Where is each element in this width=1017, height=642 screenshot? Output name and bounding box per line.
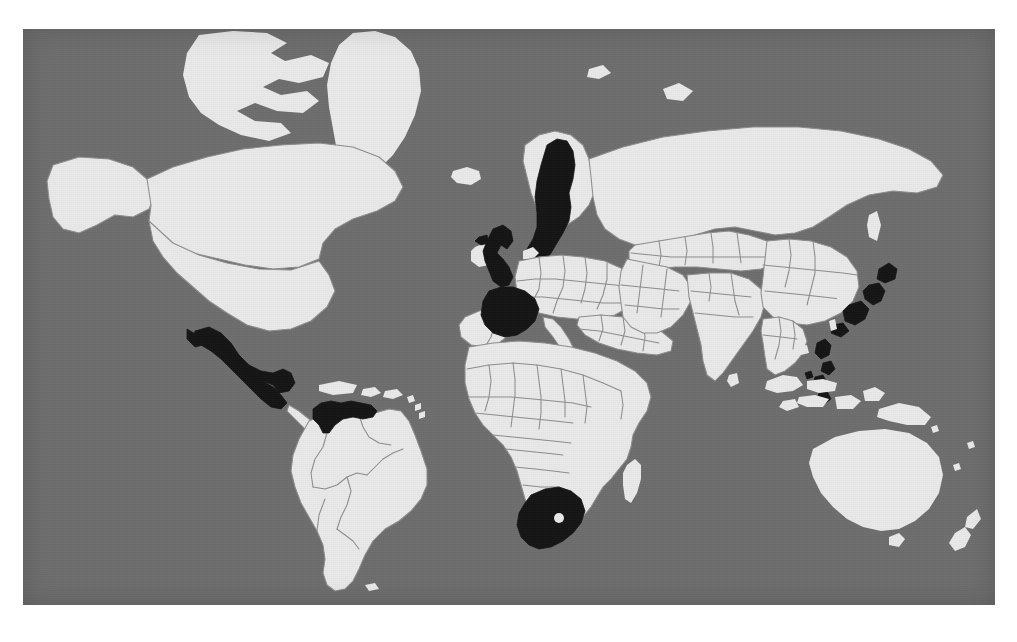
- country-lesotho-enclave: [554, 513, 564, 523]
- figure-caption-strip: [0, 0, 1017, 14]
- world-map-figure: [23, 29, 995, 605]
- world-map-svg: [23, 29, 995, 605]
